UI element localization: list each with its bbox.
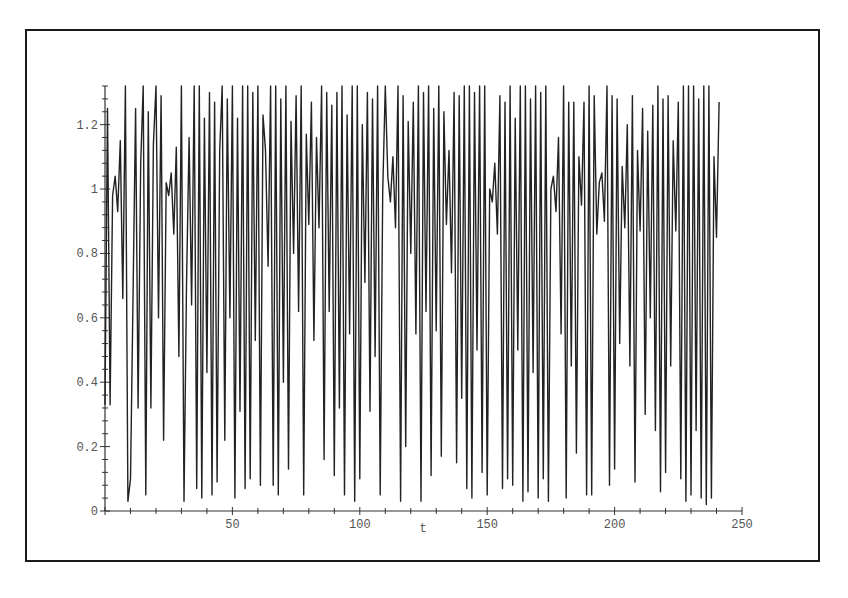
y-tick-label: 1	[91, 183, 98, 197]
y-tick-label: 0.6	[76, 312, 98, 326]
data-series	[105, 86, 719, 505]
y-tick-label: 0.4	[76, 376, 98, 390]
y-tick-label: 0.2	[76, 441, 98, 455]
series-line	[105, 86, 719, 505]
y-tick-label: 0.8	[76, 247, 98, 261]
y-tick-label: 1.2	[76, 119, 98, 133]
x-axis-label: t	[419, 522, 426, 536]
line-chart: 5010015020025000.20.40.60.811.2 t	[0, 0, 848, 598]
x-tick-label: 200	[604, 518, 626, 532]
x-tick-label: 100	[349, 518, 371, 532]
x-tick-label: 250	[731, 518, 753, 532]
y-tick-label: 0	[91, 505, 98, 519]
x-tick-label: 150	[476, 518, 498, 532]
x-tick-label: 50	[225, 518, 239, 532]
